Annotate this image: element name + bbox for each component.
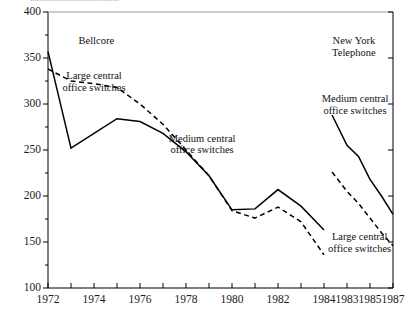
annotation-line: Large central xyxy=(44,70,144,82)
annotation-line: office switches xyxy=(305,105,405,117)
annotation-line: Bellcore xyxy=(46,35,146,47)
series-annotation-medium-central: Medium centraloffice switches xyxy=(152,133,252,156)
annotation-line: office switches xyxy=(44,82,144,94)
x-tick-label: 1980 xyxy=(210,294,254,306)
group-label-new-york-telephone: New YorkTelephone xyxy=(304,35,404,58)
annotation-line: Large central xyxy=(310,231,409,243)
x-tick-label: 1972 xyxy=(26,294,70,306)
y-tick-label: 350 xyxy=(7,52,41,64)
y-tick-label: 400 xyxy=(7,6,41,18)
group-label-bellcore: Bellcore xyxy=(46,35,146,47)
annotation-line: Medium central xyxy=(152,133,252,145)
annotation-line: Telephone xyxy=(304,47,404,59)
y-tick-label: 150 xyxy=(7,236,41,248)
y-tick-label: 100 xyxy=(7,282,41,294)
y-tick-label: 250 xyxy=(7,144,41,156)
y-tick-label: 200 xyxy=(7,190,41,202)
annotation-line: New York xyxy=(304,35,404,47)
annotation-line: Medium central xyxy=(305,93,405,105)
series-annotation-medium-central: Medium centraloffice switches xyxy=(305,93,405,116)
x-tick-label: 1982 xyxy=(256,294,300,306)
series-annotation-large-central: Large centraloffice switches xyxy=(310,231,409,254)
annotation-line: office switches xyxy=(310,243,409,255)
series-line-dashed-bellcore xyxy=(48,69,324,255)
x-tick-label: 1974 xyxy=(72,294,116,306)
x-tick-label: 1976 xyxy=(118,294,162,306)
series-annotation-large-central: Large centraloffice switches xyxy=(44,70,144,93)
x-tick-label: 1978 xyxy=(164,294,208,306)
series-line-solid-new-york-telephone xyxy=(332,115,393,214)
y-tick-label: 300 xyxy=(7,98,41,110)
annotation-line: office switches xyxy=(152,144,252,156)
x-tick-label: 1987 xyxy=(371,294,409,306)
